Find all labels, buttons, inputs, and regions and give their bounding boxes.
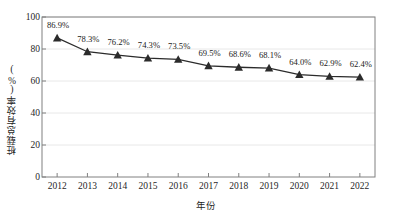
line-chart: 桩载总有效率(%) 年份 020406080100 20122013201420…: [0, 0, 412, 218]
data-point-label: 69.5%: [198, 48, 220, 58]
x-tick-label: 2021: [320, 181, 339, 191]
y-tick-label: 0: [14, 172, 40, 182]
x-tick-label: 2020: [290, 181, 309, 191]
data-point-label: 62.4%: [350, 59, 372, 69]
data-point-marker: [53, 34, 61, 42]
x-tick-label: 2022: [350, 181, 369, 191]
data-point-label: 68.1%: [259, 50, 281, 60]
data-point-label: 73.5%: [168, 41, 190, 51]
x-tick-label: 2013: [78, 181, 97, 191]
data-point-label: 74.3%: [138, 40, 160, 50]
data-point-label: 68.6%: [229, 49, 251, 59]
data-point-label: 78.3%: [77, 34, 99, 44]
x-tick-label: 2017: [199, 181, 218, 191]
y-tick-label: 80: [14, 44, 40, 54]
y-tick-label: 100: [14, 12, 40, 22]
x-tick-label: 2015: [138, 181, 157, 191]
data-point-label: 62.9%: [319, 58, 341, 68]
y-tick-label: 60: [14, 76, 40, 86]
y-tick-label: 40: [14, 108, 40, 118]
data-point-label: 76.2%: [108, 37, 130, 47]
x-axis-title: 年份: [196, 198, 216, 212]
data-point-label: 64.0%: [289, 57, 311, 67]
y-tick-label: 20: [14, 140, 40, 150]
x-tick-label: 2012: [48, 181, 67, 191]
y-axis-tick-labels: 020406080100: [10, 0, 40, 218]
x-tick-label: 2014: [108, 181, 127, 191]
x-tick-label: 2018: [229, 181, 248, 191]
x-tick-label: 2019: [260, 181, 279, 191]
data-point-label: 86.9%: [47, 20, 69, 30]
x-tick-label: 2016: [169, 181, 188, 191]
